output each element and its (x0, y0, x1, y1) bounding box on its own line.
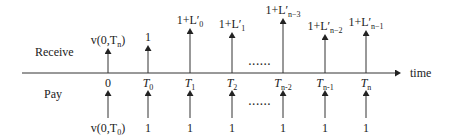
tick-label-t0: T0 (143, 77, 154, 94)
receive-amount-label: v(0,Tn) (91, 34, 125, 51)
pay-arrows (108, 93, 366, 118)
receive-amount-label: 1 (145, 31, 151, 43)
receive-amount-label: 1+L′n−1 (348, 16, 383, 33)
receive-amount-label: 1+L′0 (177, 14, 204, 31)
receive-amount-label: 1+L′n−2 (307, 20, 342, 37)
receive-amount-label: 1+L′n−3 (265, 4, 300, 21)
receive-ellipsis: ...... (248, 54, 271, 68)
pay-amount-label: 1 (187, 122, 193, 134)
receive-amount-label: 1+L′1 (219, 18, 246, 35)
pay-amount-label: 1 (145, 122, 151, 134)
cash-flow-diagram: ...... ...... Receive Pay time 0T0T1T2Tn… (0, 0, 454, 140)
pay-amount-label: 1 (363, 122, 369, 134)
pay-ellipsis: ...... (248, 94, 271, 108)
tick-label-t0: 0 (105, 77, 111, 89)
pay-amount-label: 1 (229, 122, 235, 134)
receive-label: Receive (35, 46, 74, 58)
tick-label-tn1: Tn-1 (316, 77, 333, 94)
pay-amount-label: 1 (280, 122, 286, 134)
tick-label-t1: T1 (185, 77, 196, 94)
pay-amount-label: v(0,T0) (91, 122, 125, 139)
tick-label-t2: T2 (227, 77, 238, 94)
time-axis-label: time (410, 67, 431, 79)
pay-amount-label: 1 (322, 122, 328, 134)
tick-label-tn: Tn (361, 77, 372, 94)
tick-label-tn2: Tn-2 (274, 77, 291, 94)
pay-label: Pay (44, 88, 62, 100)
